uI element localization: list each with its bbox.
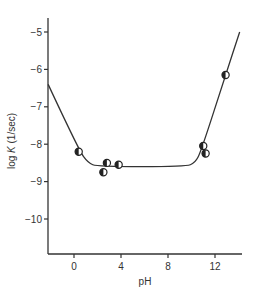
data-point (115, 161, 122, 168)
data-points (75, 71, 229, 175)
x-axis-ticks: 04812 (71, 254, 221, 272)
y-tick-label: −9 (31, 176, 43, 187)
y-tick-label: −8 (31, 139, 43, 150)
y-axis-label: log K (1/sec) (6, 113, 17, 169)
data-point (75, 148, 82, 155)
axes (48, 18, 242, 254)
y-tick-label: −7 (31, 101, 43, 112)
data-point (100, 169, 107, 176)
data-point (202, 150, 209, 157)
y-axis-ticks: −5−6−7−8−9−10 (25, 27, 48, 225)
x-tick-label: 12 (209, 261, 221, 272)
x-tick-label: 0 (71, 261, 77, 272)
y-tick-label: −6 (31, 64, 43, 75)
x-tick-label: 4 (118, 261, 124, 272)
y-tick-label: −5 (31, 27, 43, 38)
y-tick-label: −10 (25, 214, 42, 225)
x-axis-label: pH (139, 276, 152, 287)
data-point (222, 71, 229, 78)
chart: −5−6−7−8−9−10 04812 pH log K (1/sec) (0, 0, 257, 301)
x-tick-label: 8 (165, 261, 171, 272)
data-point (200, 142, 207, 149)
fitted-curve (48, 32, 240, 167)
data-point (103, 159, 110, 166)
